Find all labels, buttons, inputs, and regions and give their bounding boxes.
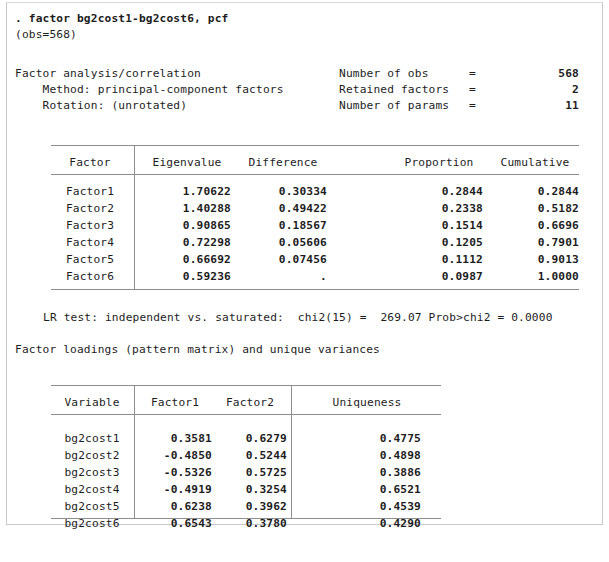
loadings-cell-factor2: 0.5244: [215, 448, 287, 463]
eigen-cell-factor: Factor2: [54, 201, 126, 216]
stat-eq-number-of-params: =: [469, 98, 476, 113]
eigen-cell-difference: 0.05606: [237, 235, 327, 250]
eigen-cell-proportion: 0.1514: [393, 218, 483, 233]
stat-label-number-of-obs: Number of obs: [339, 66, 429, 81]
loadings-cell-variable: bg2cost4: [54, 482, 130, 497]
eigen-col-header-cumulative: Cumulative: [491, 155, 579, 170]
loadings-cell-uniqueness: 0.3886: [313, 465, 421, 480]
lr-test-line: LR test: independent vs. saturated: chi2…: [43, 310, 553, 325]
loadings-cell-uniqueness: 0.6521: [313, 482, 421, 497]
loadings-cell-factor2: 0.5725: [215, 465, 287, 480]
loadings-col-header-variable: Variable: [54, 395, 130, 410]
loadings-cell-factor1: 0.3581: [140, 431, 212, 446]
stat-label-retained-factors: Retained factors: [339, 82, 449, 97]
eigen-cell-difference: 0.18567: [237, 218, 327, 233]
eigen-table-header-rule: [51, 174, 579, 175]
stata-output-screenshot: . factor bg2cost1-bg2cost6, pcf (obs=568…: [0, 0, 609, 562]
loadings-col-header-uniqueness: Uniqueness: [307, 395, 427, 410]
command-line: . factor bg2cost1-bg2cost6, pcf: [15, 11, 228, 26]
loadings-cell-uniqueness: 0.4539: [313, 499, 421, 514]
eigen-cell-proportion: 0.1112: [393, 252, 483, 267]
eigen-cell-proportion: 0.0987: [393, 269, 483, 284]
loadings-cell-factor1: -0.4850: [140, 448, 212, 463]
loadings-table-divider-left: [134, 386, 135, 518]
loadings-cell-factor2: 0.3254: [215, 482, 287, 497]
eigen-cell-factor: Factor5: [54, 252, 126, 267]
stat-label-number-of-params: Number of params: [339, 98, 449, 113]
loadings-col-header-factor1: Factor1: [140, 395, 210, 410]
eigen-cell-eigenvalue: 0.66692: [141, 252, 231, 267]
eigen-cell-eigenvalue: 1.70622: [141, 184, 231, 199]
loadings-cell-variable: bg2cost6: [54, 516, 130, 531]
eigen-cell-factor: Factor4: [54, 235, 126, 250]
eigen-cell-difference: 0.07456: [237, 252, 327, 267]
eigen-col-header-difference: Difference: [239, 155, 327, 170]
loadings-col-header-factor2: Factor2: [215, 395, 285, 410]
eigen-cell-cumulative: 0.6696: [489, 218, 579, 233]
loadings-table-header-rule: [51, 414, 441, 415]
loadings-cell-factor2: 0.3962: [215, 499, 287, 514]
eigen-col-header-proportion: Proportion: [395, 155, 483, 170]
eigen-cell-eigenvalue: 0.59236: [141, 269, 231, 284]
loadings-cell-factor2: 0.6279: [215, 431, 287, 446]
stat-value-number-of-obs: 568: [489, 66, 579, 81]
eigen-cell-difference: 0.49422: [237, 201, 327, 216]
eigen-cell-eigenvalue: 0.72298: [141, 235, 231, 250]
stat-eq-number-of-obs: =: [469, 66, 476, 81]
eigen-cell-proportion: 0.1205: [393, 235, 483, 250]
eigen-cell-factor: Factor6: [54, 269, 126, 284]
eigen-cell-cumulative: 0.9013: [489, 252, 579, 267]
loadings-cell-uniqueness: 0.4290: [313, 516, 421, 531]
stata-results-window: . factor bg2cost1-bg2cost6, pcf (obs=568…: [6, 2, 603, 525]
loadings-cell-factor1: -0.5326: [140, 465, 212, 480]
loadings-cell-factor1: 0.6238: [140, 499, 212, 514]
eigen-cell-factor: Factor1: [54, 184, 126, 199]
loadings-cell-uniqueness: 0.4775: [313, 431, 421, 446]
loadings-table-top-rule: [51, 385, 441, 386]
loadings-cell-factor1: -0.4919: [140, 482, 212, 497]
eigen-cell-factor: Factor3: [54, 218, 126, 233]
method-line: Method: principal-component factors: [15, 82, 284, 97]
stat-eq-retained-factors: =: [469, 82, 476, 97]
analysis-title: Factor analysis/correlation: [15, 66, 201, 81]
loadings-cell-factor2: 0.3780: [215, 516, 287, 531]
eigen-cell-proportion: 0.2844: [393, 184, 483, 199]
eigen-cell-cumulative: 0.5182: [489, 201, 579, 216]
eigen-col-header-eigenvalue: Eigenvalue: [143, 155, 231, 170]
eigen-col-header-factor: Factor: [54, 155, 126, 170]
eigen-table-top-rule: [51, 145, 579, 146]
rotation-line: Rotation: (unrotated): [15, 98, 187, 113]
loadings-cell-variable: bg2cost3: [54, 465, 130, 480]
stat-value-number-of-params: 11: [489, 98, 579, 113]
eigen-cell-difference: 0.30334: [237, 184, 327, 199]
loadings-table-divider-right: [291, 386, 292, 518]
eigen-cell-cumulative: 1.0000: [489, 269, 579, 284]
eigen-table-bottom-rule: [51, 289, 579, 290]
loadings-cell-variable: bg2cost5: [54, 499, 130, 514]
loadings-cell-variable: bg2cost2: [54, 448, 130, 463]
eigen-table-column-divider: [134, 146, 135, 289]
loadings-cell-variable: bg2cost1: [54, 431, 130, 446]
eigen-cell-eigenvalue: 0.90865: [141, 218, 231, 233]
factor-loadings-caption: Factor loadings (pattern matrix) and uni…: [15, 342, 380, 357]
eigen-cell-proportion: 0.2338: [393, 201, 483, 216]
obs-count-line: (obs=568): [15, 27, 77, 42]
loadings-cell-uniqueness: 0.4898: [313, 448, 421, 463]
eigen-cell-cumulative: 0.2844: [489, 184, 579, 199]
eigen-cell-difference: .: [237, 269, 327, 284]
eigen-cell-cumulative: 0.7901: [489, 235, 579, 250]
eigen-cell-eigenvalue: 1.40288: [141, 201, 231, 216]
stat-value-retained-factors: 2: [489, 82, 579, 97]
loadings-cell-factor1: 0.6543: [140, 516, 212, 531]
